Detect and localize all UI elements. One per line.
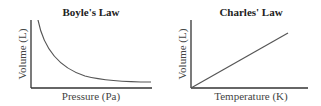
- charles-law-chart: Charles' Law Temperature (K) Volume (L): [176, 6, 308, 103]
- charts-figure: Boyle's Law Pressure (Pa) Volume (L) Cha…: [0, 0, 321, 106]
- x-axis-label: Temperature (K): [214, 90, 288, 103]
- chart-title: Boyle's Law: [62, 6, 119, 18]
- boyles-law-chart: Boyle's Law Pressure (Pa) Volume (L): [16, 6, 152, 103]
- y-axis-label: Volume (L): [176, 28, 189, 79]
- chart-title: Charles' Law: [219, 6, 282, 18]
- linear-line: [191, 33, 288, 88]
- y-axis-label: Volume (L): [16, 28, 29, 79]
- x-axis-label: Pressure (Pa): [62, 90, 121, 103]
- inverse-curve: [38, 20, 151, 82]
